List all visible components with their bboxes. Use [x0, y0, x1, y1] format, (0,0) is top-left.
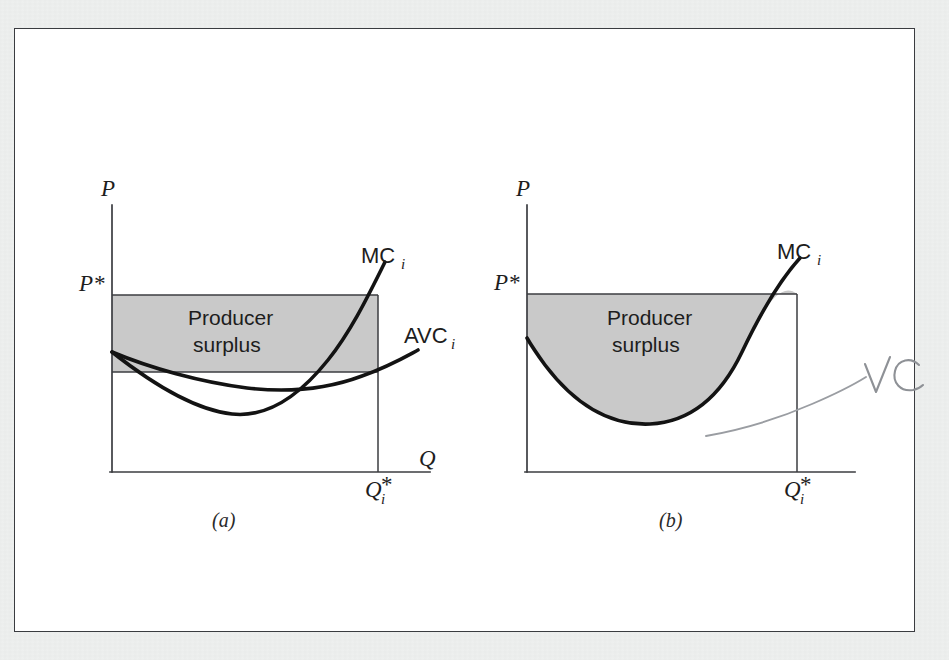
- panel-a-quantity-star-label-group: Q * i: [365, 472, 393, 507]
- vc-leader-line: [706, 377, 866, 436]
- panel-b-quantity-label: Q: [784, 477, 801, 502]
- panel-b-quantity-label-sub: i: [800, 491, 804, 507]
- panel-b-surplus-label-line1: Producer: [607, 306, 692, 329]
- panel-b-caption: (b): [659, 509, 683, 532]
- panel-a-avc-label-sub: i: [451, 336, 455, 352]
- figure-canvas: P P* Q Q * i Producer surplus MC i AVC i…: [0, 0, 949, 660]
- panel-a-quantity-label: Q: [365, 477, 382, 502]
- panel-a-price-label: P*: [78, 271, 105, 296]
- panel-b-price-label: P*: [493, 270, 520, 295]
- panel-b-quantity-star-label-group: Q * i: [784, 472, 812, 507]
- panel-b-mc-label-group: MC i: [777, 239, 821, 268]
- panel-b: P P* Q * i Producer surplus MC i (b): [493, 176, 855, 532]
- panel-a-surplus-label-line1: Producer: [188, 306, 273, 329]
- vc-annotation-text: VC: [862, 349, 863, 350]
- panel-a-y-axis-label: P: [100, 176, 115, 201]
- panel-a: P P* Q Q * i Producer surplus MC i AVC i…: [78, 176, 455, 532]
- vc-letter-v: [865, 357, 890, 392]
- panel-b-price-label-group: P*: [493, 270, 520, 295]
- panel-b-mc-label: MC: [777, 239, 811, 264]
- panel-b-mc-label-sub: i: [817, 252, 821, 268]
- panel-a-x-axis-label: Q: [419, 446, 436, 471]
- panel-a-mc-label-group: MC i: [361, 243, 405, 272]
- panel-a-quantity-label-sub: i: [381, 491, 385, 507]
- panel-a-surplus-label-line2: surplus: [193, 333, 261, 356]
- panel-a-caption: (a): [212, 509, 236, 532]
- panel-a-price-label-group: P*: [78, 271, 105, 296]
- panel-a-avc-label: AVC: [404, 323, 448, 348]
- panel-b-y-axis-label: P: [515, 176, 530, 201]
- panel-b-surplus-label-line2: surplus: [612, 333, 680, 356]
- panel-a-mc-label: MC: [361, 243, 395, 268]
- panel-a-mc-label-sub: i: [401, 256, 405, 272]
- panel-a-avc-label-group: AVC i: [404, 323, 455, 352]
- vc-letter-c: [894, 360, 923, 390]
